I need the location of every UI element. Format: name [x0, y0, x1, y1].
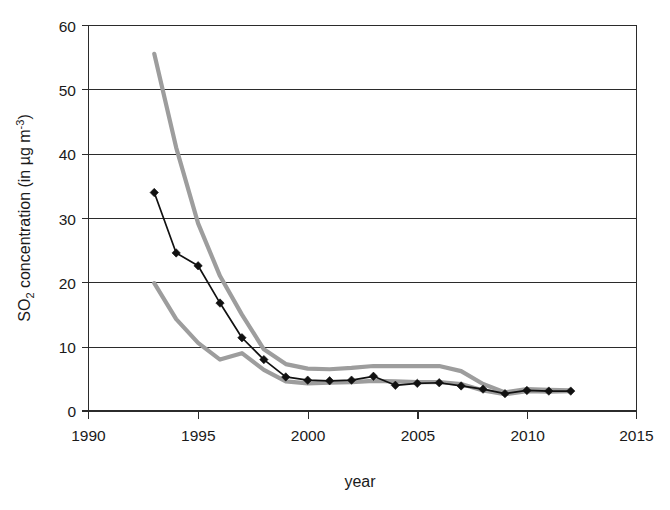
svg-text:SO2 concentration (in µg m-3): SO2 concentration (in µg m-3) [14, 114, 36, 321]
x-tick-label: 2010 [510, 427, 545, 444]
x-tick-labels: 1990 1995 2000 2005 2010 2015 [71, 427, 653, 444]
x-tick-label: 1995 [181, 427, 215, 444]
y-axis-title-tail: ) [16, 114, 33, 119]
x-tick-label: 1990 [71, 427, 106, 444]
y-axis-title: SO2 concentration (in µg m-3) [14, 114, 36, 321]
series-path [154, 54, 570, 393]
chart-container: 60 50 40 30 20 10 0 1990 1995 2000 2005 … [0, 0, 670, 510]
x-tick-label: 2000 [291, 427, 326, 444]
y-axis-title-mid: concentration (in µg m [16, 129, 33, 292]
x-axis-ticks [89, 411, 637, 419]
x-tick-label: 2015 [619, 427, 653, 444]
data-point-marker [435, 379, 443, 387]
y-tick-label: 0 [67, 403, 76, 420]
series-path [154, 193, 570, 394]
y-tick-label: 20 [59, 275, 77, 292]
y-tick-label: 10 [59, 339, 77, 356]
y-axis-title-superscript: -3 [14, 120, 26, 130]
x-axis-title: year [344, 473, 376, 490]
gridlines [88, 26, 637, 348]
y-tick-label: 40 [59, 146, 77, 163]
so2-concentration-line-chart: 60 50 40 30 20 10 0 1990 1995 2000 2005 … [0, 0, 670, 510]
data-point-marker [172, 249, 180, 257]
data-point-marker [567, 387, 575, 395]
y-tick-labels: 60 50 40 30 20 10 0 [59, 18, 77, 421]
data-point-marker [216, 299, 224, 307]
upper-bound-line [154, 54, 570, 393]
data-point-marker [194, 262, 202, 270]
y-tick-label: 60 [59, 18, 77, 35]
data-point-marker [150, 188, 158, 196]
y-axis-ticks [82, 26, 88, 412]
y-tick-label: 50 [59, 82, 77, 99]
y-tick-label: 30 [59, 211, 77, 228]
x-tick-label: 2005 [401, 427, 435, 444]
y-axis-title-lead: SO [16, 299, 33, 322]
mean-series-line [154, 193, 570, 394]
